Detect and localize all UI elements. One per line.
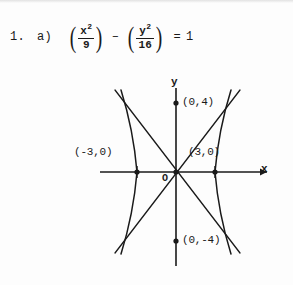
label-right-vertex: (3,0): [188, 146, 220, 158]
y-axis-label: y: [171, 76, 178, 88]
fraction-denominator: 9: [81, 40, 92, 52]
fraction-denominator: 16: [136, 40, 154, 52]
equation-term-x: ( x2 9 ): [68, 22, 105, 52]
exponent: 2: [146, 22, 151, 31]
origin-label: O: [162, 173, 168, 184]
minus-operator: –: [112, 30, 120, 44]
fraction-x-squared-over-9: x2 9: [78, 23, 94, 52]
label-left-vertex: (-3,0): [74, 146, 112, 158]
right-paren-icon: ): [156, 22, 163, 52]
hyperbola-graph: x y O (-3,0) (3,0) (0,4) (0,-4): [55, 70, 280, 280]
label-top-point: (0,4): [182, 96, 214, 108]
item-number: 1.: [10, 30, 25, 44]
scanned-page: 1. a) ( x2 9 ) – ( y2 16 ) = 1: [0, 0, 293, 285]
equation-right-side: 1: [186, 30, 194, 44]
x-axis-label: x: [261, 163, 268, 175]
point-bottom: [173, 238, 178, 243]
equals-operator: =: [174, 30, 182, 44]
fraction-numerator: y2: [137, 23, 153, 37]
fraction-y-squared-over-16: y2 16: [136, 23, 154, 52]
scan-edge-artifact: [0, 0, 293, 3]
point-top: [173, 100, 178, 105]
left-paren-icon: (: [70, 22, 77, 52]
equation-term-y: ( y2 16 ): [126, 22, 164, 52]
point-origin: [173, 169, 178, 174]
left-paren-icon: (: [128, 22, 135, 52]
exponent: 2: [87, 22, 92, 31]
right-paren-icon: ): [96, 22, 103, 52]
problem-statement: 1. a) ( x2 9 ) – ( y2 16 ) = 1: [10, 22, 194, 52]
label-bottom-point: (0,-4): [182, 234, 220, 246]
fraction-numerator: x2: [78, 23, 94, 37]
item-letter: a): [37, 30, 52, 44]
